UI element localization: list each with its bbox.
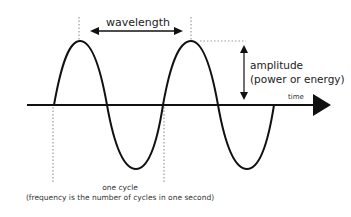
- amplitude-arrow-down-icon: [240, 92, 248, 100]
- amplitude-title: amplitude: [250, 58, 345, 72]
- wavelength-arrow-right-icon: [174, 27, 183, 35]
- amplitude-subtitle: (power or energy): [250, 72, 345, 86]
- frequency-note: (frequency is the number of cycles in on…: [0, 193, 240, 203]
- amplitude-label: amplitude (power or energy): [250, 58, 345, 86]
- wavelength-arrow-left-icon: [90, 27, 99, 35]
- time-axis-arrowhead-icon: [313, 94, 331, 116]
- cycle-label: one cycle: [0, 183, 240, 193]
- amplitude-arrow-up-icon: [240, 45, 248, 53]
- cycle-caption: one cycle (frequency is the number of cy…: [0, 183, 240, 203]
- time-axis-label: time: [288, 93, 304, 101]
- wavelength-label: wavelength: [106, 16, 170, 29]
- wave-diagram: wavelength amplitude (power or energy) t…: [0, 0, 351, 217]
